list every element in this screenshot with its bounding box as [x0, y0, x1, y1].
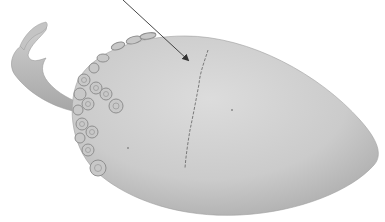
tentacle [11, 22, 82, 112]
photo-scene [0, 0, 385, 222]
surface-spot [127, 147, 129, 149]
squid-body [72, 36, 378, 215]
surface-spot [231, 109, 233, 111]
